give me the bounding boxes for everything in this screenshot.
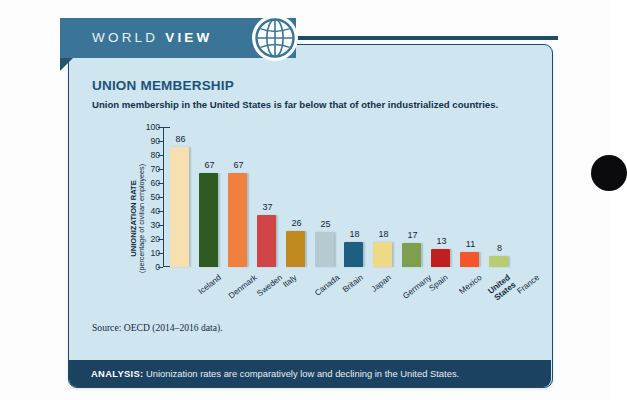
- bar-group: 67Sweden: [224, 127, 253, 267]
- y-tick-label: 40: [136, 206, 160, 216]
- y-tick-label: 70: [136, 164, 160, 174]
- page-subtitle: Union membership in the United States is…: [92, 99, 542, 110]
- banner-title-word-light: WORLD: [92, 30, 158, 45]
- y-tick-mark: [158, 267, 163, 268]
- analysis-body: Unionization rates are comparatively low…: [143, 368, 459, 379]
- x-axis-label: Sweden: [255, 273, 284, 298]
- bar: [402, 243, 421, 267]
- bar-value-label: 11: [456, 239, 485, 249]
- x-axis-label: Mexico: [457, 273, 483, 296]
- bar: [286, 231, 305, 267]
- y-tick-mark: [158, 141, 163, 142]
- bar-group: 11UnitedStates: [456, 127, 485, 267]
- bar-value-label: 25: [311, 219, 340, 229]
- bar-group: 86Iceland: [166, 127, 195, 267]
- bar-group: 67Denmark: [195, 127, 224, 267]
- analysis-bar: ANALYSIS: Unionization rates are compara…: [69, 360, 551, 387]
- y-tick-mark: [158, 239, 163, 240]
- page-title: UNION MEMBERSHIP: [92, 78, 234, 93]
- bar-group: 17Spain: [398, 127, 427, 267]
- bar-value-label: 86: [166, 134, 195, 144]
- x-axis-label: Italy: [281, 273, 298, 289]
- banner-title: WORLD VIEW: [92, 30, 213, 45]
- bar-value-label: 17: [398, 230, 427, 240]
- bar: [431, 249, 450, 267]
- chart-source: Source: OECD (2014–2016 data).: [92, 322, 223, 333]
- ribbon-connector-line: [296, 36, 558, 40]
- y-tick-mark: [158, 253, 163, 254]
- y-tick-mark: [158, 225, 163, 226]
- x-axis-label: Japan: [370, 273, 393, 294]
- bar-value-label: 26: [282, 218, 311, 228]
- y-axis-label-wrap: UNIONIZATION RATE (percentage of civilia…: [114, 133, 132, 273]
- bar-group: 25Britain: [311, 127, 340, 267]
- y-tick-mark: [158, 155, 163, 156]
- y-tick-label: 50: [136, 192, 160, 202]
- y-tick-label: 20: [136, 234, 160, 244]
- bar-value-label: 37: [253, 202, 282, 212]
- y-tick-label: 100: [136, 122, 160, 132]
- banner-fold: [60, 58, 73, 71]
- y-tick-mark: [158, 197, 163, 198]
- bar: [315, 232, 334, 267]
- banner-title-word-bold: VIEW: [165, 30, 212, 45]
- analysis-label: ANALYSIS:: [91, 368, 143, 379]
- bar: [170, 147, 189, 267]
- bar: [257, 215, 276, 267]
- bar-group: 18Germany: [369, 127, 398, 267]
- bar-value-label: 18: [369, 229, 398, 239]
- analysis-text: ANALYSIS: Unionization rates are compara…: [91, 368, 459, 379]
- bar: [228, 173, 247, 267]
- bar-group: 26Canada: [282, 127, 311, 267]
- bar: [373, 242, 392, 267]
- y-tick-label: 80: [136, 150, 160, 160]
- plot-area: 86Iceland67Denmark67Sweden37Italy26Canad…: [166, 127, 511, 267]
- bar-value-label: 67: [224, 160, 253, 170]
- y-tick-label: 10: [136, 248, 160, 258]
- bar-group: 13Mexico: [427, 127, 456, 267]
- x-axis-label: Iceland: [197, 273, 223, 296]
- bar: [199, 173, 218, 267]
- y-tick-mark: [158, 183, 163, 184]
- bar-group: 37Italy: [253, 127, 282, 267]
- bar-group: 8France: [485, 127, 514, 267]
- bar-value-label: 18: [340, 229, 369, 239]
- y-axis-line: [163, 127, 164, 267]
- y-axis-ticks: 1009080706050403020100: [136, 127, 160, 273]
- bar: [489, 256, 508, 267]
- y-tick-label: 60: [136, 178, 160, 188]
- bar-value-label: 13: [427, 236, 456, 246]
- x-axis-label: Canada: [313, 273, 341, 298]
- y-tick-mark: [158, 211, 163, 212]
- y-tick-mark: [158, 169, 163, 170]
- x-axis-label: Denmark: [227, 273, 259, 301]
- x-axis-label: UnitedStates: [486, 273, 517, 303]
- bar: [344, 242, 363, 267]
- y-tick-mark: [158, 127, 163, 128]
- y-tick-label: 30: [136, 220, 160, 230]
- y-tick-label: 90: [136, 136, 160, 146]
- page-edge-artifact: [591, 155, 627, 191]
- bar-value-label: 67: [195, 160, 224, 170]
- globe-icon: [251, 14, 299, 62]
- bar-group: 18Japan: [340, 127, 369, 267]
- y-tick-label: 0: [136, 262, 160, 272]
- bar-value-label: 8: [485, 243, 514, 253]
- x-axis-label: Britain: [341, 273, 365, 294]
- bar-chart: UNIONIZATION RATE (percentage of civilia…: [118, 127, 518, 317]
- bar: [460, 252, 479, 267]
